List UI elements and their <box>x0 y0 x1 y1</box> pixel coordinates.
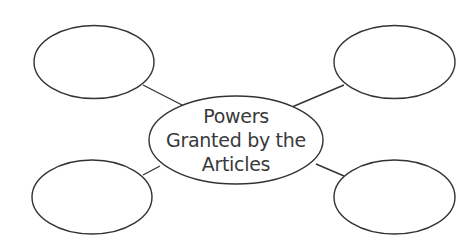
central-label-line-1: Powers <box>203 104 269 128</box>
central-node-label: Powers Granted by the Articles <box>149 96 323 184</box>
outer-node-bottom-right <box>334 160 455 234</box>
outer-node-bottom-left <box>32 160 152 234</box>
central-label-line-2: Granted by the <box>166 128 306 152</box>
outer-node-top-left <box>34 26 154 99</box>
outer-node-top-right <box>334 26 455 99</box>
central-label-line-3: Articles <box>202 152 270 176</box>
